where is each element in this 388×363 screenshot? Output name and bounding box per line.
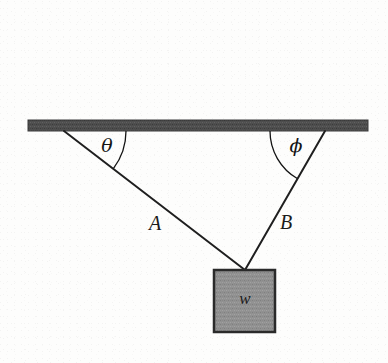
ceiling-bar (28, 120, 368, 131)
ceiling-bar-body (28, 120, 368, 131)
angle-phi-label: ϕ (290, 134, 303, 156)
rope-b-line (245, 131, 325, 270)
weight-label: w (239, 289, 251, 308)
diagram-canvas: θ ϕ A B w (0, 0, 388, 363)
physics-diagram-figure: θ ϕ A B w (0, 0, 388, 363)
rope-b-label: B (280, 211, 292, 233)
angle-theta-label: θ (101, 134, 113, 156)
rope-a-label: A (147, 212, 162, 234)
rope-a-line (64, 131, 245, 270)
angle-theta-arc (113, 131, 126, 169)
